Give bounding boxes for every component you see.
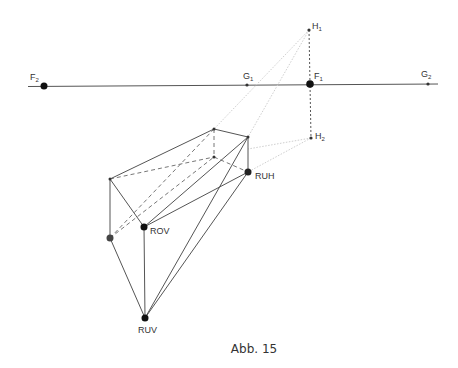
point-G2 (426, 82, 429, 85)
label-RUV: RUV (138, 325, 157, 335)
point-RUH (245, 169, 252, 176)
horizon-line (28, 84, 438, 87)
point-RUV (142, 315, 149, 322)
construction-lines (214, 30, 311, 172)
point-top-right (247, 136, 250, 139)
point-top-left (109, 178, 112, 181)
label-ROV: ROV (150, 226, 170, 236)
visible-edges (110, 129, 248, 318)
point-H1 (307, 28, 310, 31)
label-G1: G1 (243, 71, 254, 82)
label-H2: H2 (315, 131, 326, 142)
point-lower-left (107, 235, 114, 242)
label-G2: G2 (421, 69, 432, 80)
label-F1: F1 (314, 71, 324, 82)
label-RUH: RUH (255, 171, 275, 181)
point-G1 (245, 83, 248, 86)
point-hidden (213, 156, 216, 159)
point-ROV (141, 224, 148, 231)
perspective-diagram: F2 G1 F1 G2 H1 H2 RUH ROV RUV (0, 0, 458, 368)
point-H2 (309, 136, 312, 139)
point-F1 (306, 80, 314, 88)
point-F2 (41, 83, 48, 90)
figure-caption: Abb. 15 (0, 342, 458, 356)
point-top-back (213, 128, 216, 131)
label-F2: F2 (30, 72, 40, 83)
label-H1: H1 (312, 21, 323, 32)
